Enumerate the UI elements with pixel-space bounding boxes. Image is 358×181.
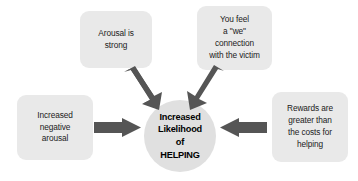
arrow-down-right-icon bbox=[124, 66, 164, 110]
node-we-connection-label: You feel a "we" connection with the vict… bbox=[209, 14, 260, 61]
node-increased-negative-arousal: Increased negative arousal bbox=[17, 95, 93, 160]
node-we-connection: You feel a "we" connection with the vict… bbox=[197, 6, 272, 70]
node-arousal-strong: Arousal is strong bbox=[80, 11, 152, 68]
arrow-down-left-icon bbox=[186, 64, 226, 110]
node-outcome-increased-likelihood-of-helping: Increased Likelihood of HELPING bbox=[144, 100, 216, 172]
node-rewards-greater-than-costs: Rewards are greater than the costs for h… bbox=[272, 92, 348, 162]
arrow-left-icon bbox=[220, 118, 267, 137]
arrow-right-icon bbox=[94, 118, 141, 137]
node-arousal-strong-label: Arousal is strong bbox=[98, 28, 133, 52]
node-outcome-label: Increased Likelihood of HELPING bbox=[158, 111, 202, 162]
node-increased-negative-arousal-label: Increased negative arousal bbox=[37, 110, 73, 145]
helping-likelihood-diagram: Arousal is strong You feel a "we" connec… bbox=[0, 0, 358, 181]
node-rewards-greater-than-costs-label: Rewards are greater than the costs for h… bbox=[287, 103, 333, 150]
